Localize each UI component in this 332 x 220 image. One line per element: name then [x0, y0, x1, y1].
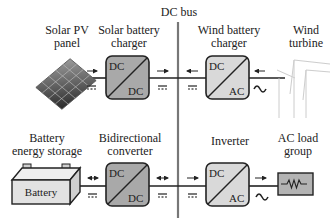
- ac-tilde-icon: [256, 194, 268, 200]
- dc-symbol-icon: [158, 86, 167, 89]
- inverter-box: DC AC: [206, 163, 249, 206]
- bidirectional-converter-box: DC DC: [106, 163, 149, 206]
- dc-symbol-icon: [188, 194, 197, 197]
- inverter-out: AC: [229, 192, 244, 204]
- bidirectional-in: DC: [109, 167, 124, 179]
- solar-charger-box: DC DC: [106, 56, 149, 99]
- wind-charger-box: DC AC: [206, 56, 249, 99]
- ac-load-box: [278, 173, 313, 195]
- dc-symbol-icon: [88, 194, 97, 197]
- wind-charger-in: DC: [209, 60, 224, 72]
- bidirectional-out: DC: [128, 192, 143, 204]
- dc-symbol-icon: [158, 194, 167, 197]
- solar-charger-out: DC: [128, 85, 143, 97]
- wind-turbine-icon: [277, 60, 330, 118]
- solar-panel-icon: [36, 59, 96, 110]
- ac-tilde-icon: [254, 86, 266, 92]
- inverter-in: DC: [209, 167, 224, 179]
- diagram-canvas: DC DC DC AC Battery: [0, 0, 332, 220]
- dc-symbol-icon: [188, 86, 197, 89]
- battery-box-label: Battery: [25, 186, 58, 198]
- wind-charger-out: AC: [229, 85, 244, 97]
- solar-charger-in: DC: [109, 60, 124, 72]
- battery-icon: Battery: [12, 164, 80, 204]
